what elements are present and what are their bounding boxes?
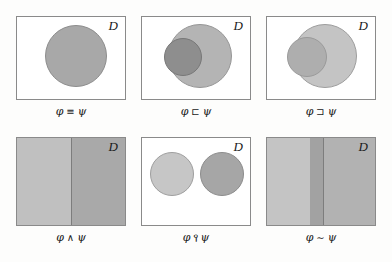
panel-conjunction-overlap: D (16, 137, 126, 226)
caption-left-var: φ (56, 105, 64, 118)
overlap-band-shape (310, 138, 323, 225)
half-divider-shape (71, 138, 72, 225)
phi-region-shape (150, 152, 194, 196)
panel-strict-superset: D (266, 16, 376, 100)
caption-incompatibility: φ⫯ψ (141, 232, 251, 243)
phi-band-shape (267, 138, 310, 225)
domain-letter: D (109, 140, 118, 153)
caption-left-var: φ (306, 105, 314, 118)
caption-operator: ∧ (64, 233, 77, 243)
caption-left-var: φ (56, 231, 64, 244)
caption-strict-superset: φ⊐ψ (266, 106, 376, 117)
domain-letter: D (234, 140, 243, 153)
caption-right-var: ψ (78, 105, 87, 118)
caption-right-var: ψ (201, 231, 210, 244)
caption-strict-subset: φ⊏ψ (141, 106, 251, 117)
caption-left-var: φ (183, 231, 191, 244)
psi-region-shape (287, 37, 327, 77)
phi-half-shape (17, 138, 71, 225)
caption-right-var: ψ (328, 231, 337, 244)
caption-conjunction-overlap: φ∧ψ (16, 232, 126, 243)
caption-operator: ⊐ (313, 107, 327, 117)
caption-operator: ⊏ (188, 107, 202, 117)
domain-letter: D (359, 140, 368, 153)
phi-psi-region-shape (45, 25, 107, 87)
domain-letter: D (109, 19, 118, 32)
venn-relation-figure: D φ≡ψ D φ⊏ψ D φ⊐ψ D φ∧ψ D φ⫯ψ (0, 0, 392, 262)
caption-similarity: φ∼ψ (266, 232, 376, 243)
panel-strict-subset: D (141, 16, 251, 100)
caption-operator: ∼ (313, 233, 327, 243)
panel-similarity: D (266, 137, 376, 226)
caption-right-var: ψ (203, 105, 212, 118)
band-divider-shape (323, 138, 324, 225)
caption-left-var: φ (306, 231, 314, 244)
panel-incompatibility: D (141, 137, 251, 226)
panel-equivalence: D (16, 16, 126, 100)
caption-operator: ⫯ (191, 233, 201, 243)
phi-region-shape (164, 38, 202, 76)
domain-letter: D (359, 19, 368, 32)
psi-region-shape (200, 152, 244, 196)
caption-equivalence: φ≡ψ (16, 106, 126, 117)
caption-left-var: φ (181, 105, 189, 118)
caption-right-var: ψ (328, 105, 337, 118)
domain-letter: D (234, 19, 243, 32)
caption-operator: ≡ (63, 107, 77, 117)
caption-right-var: ψ (77, 231, 86, 244)
